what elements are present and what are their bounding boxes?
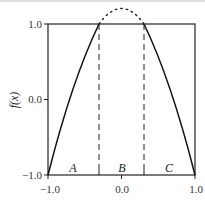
y-axis-title: f(x) bbox=[7, 92, 21, 109]
y-tick-label: 0.0 bbox=[28, 93, 42, 105]
y-tick-label: 1.0 bbox=[28, 18, 42, 30]
chart: 1.0 0.0 −1.0 f(x) −1.0 0.0 1.0 A B C bbox=[0, 0, 205, 201]
region-label-c: C bbox=[165, 161, 174, 175]
x-tick-label: 0.0 bbox=[115, 183, 129, 195]
x-tick-label: −1.0 bbox=[40, 183, 60, 195]
y-tick-label: −1.0 bbox=[22, 169, 42, 181]
region-label-a: A bbox=[68, 161, 77, 175]
curve-right-segment bbox=[144, 24, 195, 175]
x-tick-label: 1.0 bbox=[189, 183, 203, 195]
curve-left-segment bbox=[48, 24, 99, 175]
y-axis: 1.0 0.0 −1.0 f(x) bbox=[7, 18, 48, 181]
curve-dotted-overshoot bbox=[99, 9, 144, 25]
region-label-b: B bbox=[118, 161, 126, 175]
caption-fragment bbox=[0, 0, 205, 2]
